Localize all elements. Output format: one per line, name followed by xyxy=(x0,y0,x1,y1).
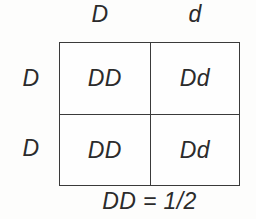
column-header-allele-1: D xyxy=(70,3,130,26)
grid-cell-r2c1: DD xyxy=(60,114,150,185)
row-header-allele-2: D xyxy=(12,137,50,160)
grid-cell-r1c2: Dd xyxy=(150,43,240,114)
ratio-caption: DD = 1/2 xyxy=(59,190,240,213)
grid-cell-r2c2: Dd xyxy=(150,114,240,185)
punnett-grid: DD Dd DD Dd xyxy=(59,42,240,186)
punnett-square-diagram: D d D D DD Dd DD Dd DD = 1/2 xyxy=(0,0,256,219)
grid-cell-r1c1: DD xyxy=(60,43,150,114)
row-header-allele-1: D xyxy=(12,67,50,90)
column-header-allele-2: d xyxy=(165,3,225,26)
